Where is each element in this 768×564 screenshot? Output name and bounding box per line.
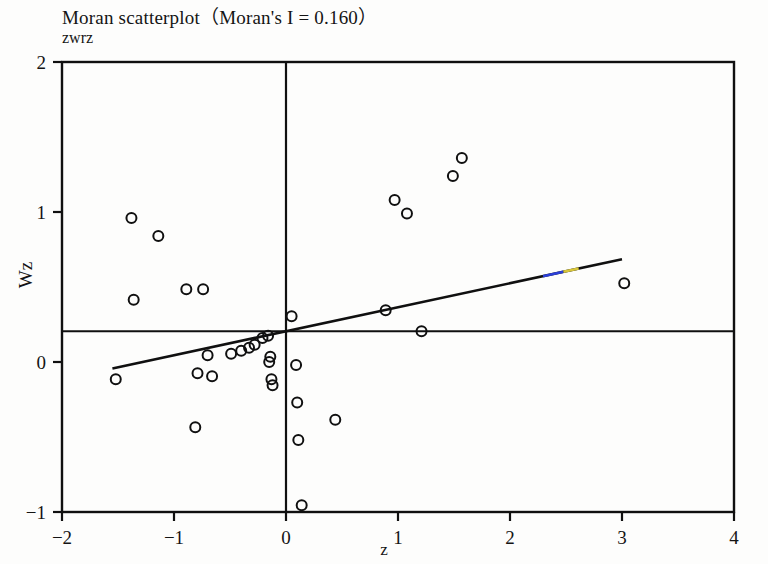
- y-tick-label-0: −1: [26, 502, 46, 523]
- y-tick-label-3: 2: [37, 52, 47, 73]
- x-tick-label-3: 1: [393, 527, 403, 548]
- data-point: [293, 435, 303, 445]
- data-point: [457, 153, 467, 163]
- data-point: [619, 278, 629, 288]
- data-point: [402, 209, 412, 219]
- plot-canvas: −2−101234−1012: [0, 0, 768, 564]
- x-tick-label-4: 2: [505, 527, 515, 548]
- x-tick-label-2: 0: [281, 527, 291, 548]
- axis-ticks: [53, 62, 734, 521]
- plot-frame: [62, 62, 734, 512]
- reference-lines: [62, 62, 734, 512]
- data-point: [181, 284, 191, 294]
- data-point: [292, 398, 302, 408]
- fit-line-artifact-blue: [543, 272, 563, 276]
- data-point: [448, 171, 458, 181]
- data-point: [111, 374, 121, 384]
- data-point: [226, 349, 236, 359]
- data-point: [190, 422, 200, 432]
- data-point: [207, 371, 217, 381]
- data-point: [268, 380, 278, 390]
- data-point: [198, 284, 208, 294]
- y-tick-label-2: 1: [37, 202, 47, 223]
- data-point: [297, 500, 307, 510]
- x-tick-label-0: −2: [52, 527, 72, 548]
- data-point: [330, 415, 340, 425]
- plot-border: [62, 62, 734, 512]
- x-tick-label-1: −1: [164, 527, 184, 548]
- data-point: [203, 350, 213, 360]
- data-point: [291, 360, 301, 370]
- data-point: [390, 195, 400, 205]
- data-point: [129, 295, 139, 305]
- fit-line-artifact-yellow: [563, 269, 578, 272]
- data-point: [126, 213, 136, 223]
- data-point: [153, 231, 163, 241]
- x-tick-label-5: 3: [617, 527, 627, 548]
- x-tick-label-6: 4: [729, 527, 739, 548]
- axis-tick-labels: −2−101234−1012: [26, 52, 739, 548]
- regression-line: [112, 259, 622, 368]
- data-point: [193, 368, 203, 378]
- moran-scatterplot-figure: Moran scatterplot（Moran's I = 0.160） zwr…: [0, 0, 768, 564]
- data-point: [287, 311, 297, 321]
- y-tick-label-1: 0: [37, 352, 47, 373]
